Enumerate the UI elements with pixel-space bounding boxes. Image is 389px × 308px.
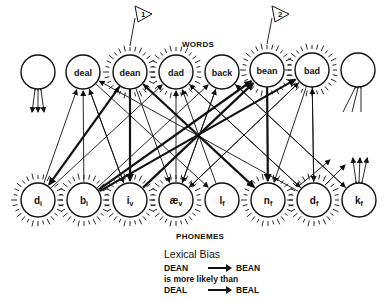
connection-edges xyxy=(32,79,367,191)
svg-text:1: 1 xyxy=(141,10,146,19)
nodes: dealdean1dadbackbean2baddibiivævlfnfdfkf xyxy=(21,6,376,217)
phoneme-node-df: df xyxy=(297,183,331,217)
svg-text:2: 2 xyxy=(278,10,283,19)
svg-text:bad: bad xyxy=(304,66,320,76)
legend-row-2: is more likely than xyxy=(164,273,260,284)
word-node-bad: bad xyxy=(295,53,329,87)
legend-row-3: DEAL BEAL xyxy=(164,284,260,295)
edge xyxy=(99,81,252,190)
phoneme-node-iv: iv xyxy=(113,183,147,217)
svg-text:back: back xyxy=(212,68,234,78)
edge xyxy=(267,88,268,181)
legend-title: Lexical Bias xyxy=(164,248,260,260)
word-node-deal: deal xyxy=(66,55,100,89)
edge xyxy=(89,89,123,182)
legend-row-1: DEAN BEAN xyxy=(164,262,260,273)
word-node-back: back xyxy=(205,55,239,89)
phoneme-node-aev: æv xyxy=(159,183,193,217)
word-node-w0 xyxy=(21,55,55,89)
words-label: WORDS xyxy=(182,40,214,49)
phoneme-node-kf: kf xyxy=(342,183,376,217)
edge xyxy=(312,88,313,181)
edge xyxy=(49,87,119,185)
phoneme-node-bi: bi xyxy=(67,183,101,217)
word-node-dean: dean1 xyxy=(113,6,152,89)
svg-text:deal: deal xyxy=(74,68,92,78)
svg-text:dad: dad xyxy=(168,68,184,78)
arrow-icon xyxy=(208,267,230,269)
phoneme-node-di: di xyxy=(21,183,55,217)
svg-text:bean: bean xyxy=(256,66,277,76)
legend: Lexical Bias DEAN BEAN is more likely th… xyxy=(164,248,260,295)
edge xyxy=(96,84,208,187)
word-node-w7 xyxy=(341,53,375,87)
phoneme-node-lf: lf xyxy=(205,183,239,217)
svg-text:dean: dean xyxy=(119,68,140,78)
word-node-dad: dad xyxy=(159,55,193,89)
word-node-bean: bean2 xyxy=(250,6,289,87)
arrow-icon xyxy=(208,289,230,291)
phoneme-node-nf: nf xyxy=(251,183,285,217)
phonemes-label: PHONEMES xyxy=(176,232,224,241)
